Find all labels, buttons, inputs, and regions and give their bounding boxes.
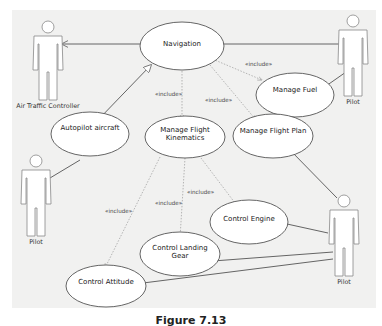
use-case-manage-flight-plan[interactable]: Manage Flight Plan — [233, 114, 313, 158]
use-case-navigation[interactable]: Navigation — [140, 22, 224, 70]
include-kinematics-engine — [201, 158, 238, 207]
assoc-engine-pilot-bottom — [287, 224, 328, 233]
use-case-label: Kinematics — [166, 134, 205, 142]
include-label: «include» — [187, 189, 214, 195]
include-label: «include» — [205, 97, 232, 103]
include-label: «include» — [155, 200, 182, 206]
include-label: «include» — [155, 91, 182, 97]
include-label: «include» — [105, 208, 132, 214]
figure-caption: Figure 7.13 — [0, 314, 382, 326]
use-case-control-landing-gear[interactable]: Control Landing Gear — [140, 232, 220, 276]
use-case-label: Manage Fuel — [273, 86, 317, 94]
use-case-label: Manage Flight Plan — [240, 127, 307, 135]
use-case-label: Control Attitude — [78, 278, 134, 286]
use-case-control-attitude[interactable]: Control Attitude — [66, 265, 146, 307]
use-case-label: Manage Flight — [160, 126, 210, 134]
use-case-manage-flight-kinematics[interactable]: Manage Flight Kinematics — [145, 116, 225, 158]
use-case-diagram: «include» «include» «include» «include» … — [0, 0, 382, 326]
actor-label: Air Traffic Controller — [16, 102, 80, 110]
actor-pilot-left[interactable]: Pilot — [21, 155, 51, 246]
generalization-autopilot-navigation — [97, 65, 151, 121]
assoc-flightplan-pilot-bottom — [290, 150, 337, 198]
assoc-autopilot-pilot-left — [50, 160, 80, 178]
use-case-label: Control Landing — [152, 244, 207, 252]
actor-label: Pilot — [337, 278, 351, 286]
assoc-landing-pilot-bottom — [213, 252, 333, 261]
use-case-label: Navigation — [163, 40, 201, 48]
actor-pilot-bottom[interactable]: Pilot — [329, 195, 359, 286]
use-case-autopilot[interactable]: Autopilot aircraft — [51, 112, 129, 156]
include-navigation-flightplan — [210, 65, 256, 120]
include-label: «include» — [245, 61, 272, 67]
use-case-control-engine[interactable]: Control Engine — [210, 200, 288, 244]
use-case-label: Control Engine — [223, 215, 275, 223]
diagram-canvas: «include» «include» «include» «include» … — [0, 0, 382, 326]
use-case-label: Autopilot aircraft — [61, 124, 120, 132]
include-kinematics-landing — [180, 158, 185, 238]
actor-label: Pilot — [29, 238, 43, 246]
use-case-manage-fuel[interactable]: Manage Fuel — [256, 73, 334, 117]
actor-label: Pilot — [346, 98, 360, 106]
use-case-label: Gear — [172, 252, 189, 260]
actor-pilot-top[interactable]: Pilot — [338, 15, 368, 106]
actor-air-traffic-controller[interactable]: Air Traffic Controller — [16, 21, 80, 110]
